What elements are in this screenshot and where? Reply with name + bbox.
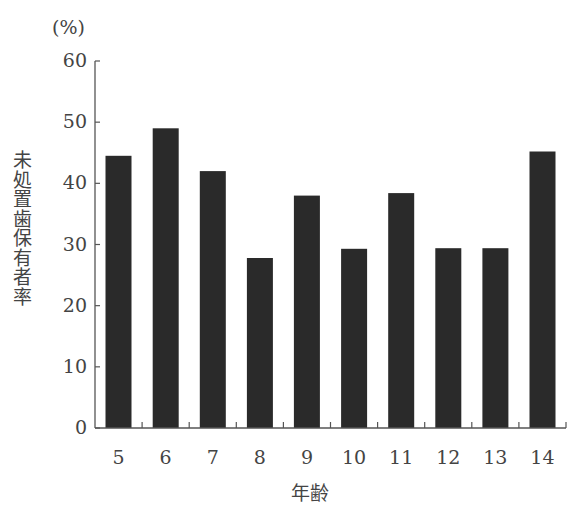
bar-12	[435, 248, 461, 428]
bar-6	[153, 128, 179, 428]
bar-13	[482, 248, 508, 428]
x-tick-label: 10	[334, 446, 374, 468]
bar-14	[530, 152, 556, 429]
x-tick-label: 6	[146, 446, 186, 468]
y-tick-label: 60	[47, 50, 87, 70]
bar-chart: (%) 未処置歯保有者率 0102030405060 5678910111213…	[0, 0, 576, 512]
x-axis-title: 年齢	[260, 478, 360, 505]
x-tick-label: 5	[99, 446, 139, 468]
y-tick-label: 10	[47, 356, 87, 376]
y-tick-label: 30	[47, 234, 87, 254]
bar-10	[341, 249, 367, 428]
y-tick-label: 20	[47, 295, 87, 315]
x-tick-label: 12	[428, 446, 468, 468]
x-tick-label: 13	[475, 446, 515, 468]
y-tick-label: 40	[47, 172, 87, 192]
x-tick-label: 7	[193, 446, 233, 468]
x-tick-label: 11	[381, 446, 421, 468]
x-tick-label: 8	[240, 446, 280, 468]
bar-9	[294, 196, 320, 428]
bar-7	[200, 171, 226, 428]
bar-8	[247, 258, 273, 428]
bar-11	[388, 193, 414, 428]
x-tick-label: 9	[287, 446, 327, 468]
y-tick-label: 50	[47, 111, 87, 131]
y-tick-label: 0	[47, 417, 87, 437]
bar-5	[106, 156, 132, 428]
x-tick-label: 14	[522, 446, 562, 468]
